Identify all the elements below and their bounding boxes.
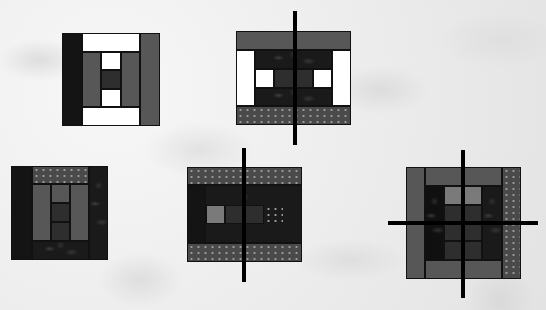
patch-left-column [236, 50, 255, 106]
patch-left-dark [187, 185, 206, 243]
patch-left-strip [62, 33, 82, 126]
patch-inner-right [121, 52, 140, 107]
patch-dotted-square [264, 205, 283, 224]
patch-center [101, 70, 121, 89]
patch-inner-left [82, 52, 101, 107]
patch-center [51, 203, 70, 222]
patch-center-top [51, 184, 70, 203]
cut-line-horizontal [388, 221, 538, 225]
patch-inner-left [32, 184, 51, 241]
patch-right-strip [89, 166, 108, 260]
patch-bottom-strip [32, 241, 89, 260]
patch-center-left [274, 69, 294, 88]
patch-center-top [101, 52, 121, 70]
cut-line-vertical [293, 11, 297, 145]
patch-inner-right [70, 184, 89, 241]
patch-center-bottom [101, 89, 121, 107]
patch-white-square-left [255, 69, 274, 88]
patch-top-strip [82, 33, 140, 52]
patch-right-column [332, 50, 351, 106]
patch-center-bottom [51, 222, 70, 241]
patch-bottom-strip [82, 107, 140, 126]
patch-left-strip [11, 166, 32, 260]
cut-line-vertical [242, 148, 246, 282]
patch-dotted-top [32, 166, 89, 184]
patch-square-3 [244, 205, 264, 224]
patch-right-strip [140, 33, 160, 126]
patch-light-square [206, 205, 225, 224]
patch-white-square-right [313, 69, 332, 88]
quilt-diagram [0, 0, 546, 310]
